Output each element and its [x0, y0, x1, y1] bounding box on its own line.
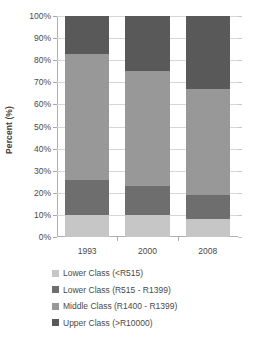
y-axis-tick-right: [238, 193, 242, 194]
y-axis-tick-right: [238, 149, 242, 150]
bar-segment[interactable]: [65, 215, 110, 237]
y-axis-tick: [53, 82, 57, 83]
y-axis-tick: [53, 171, 57, 172]
legend-swatch-icon: [52, 286, 59, 293]
y-axis-tick-label: 50%: [34, 122, 51, 132]
legend-item[interactable]: Lower Class (<R515): [52, 265, 252, 282]
y-axis-tick: [53, 104, 57, 105]
y-axis-tick-label: 90%: [34, 33, 51, 43]
bar-stack[interactable]: [125, 16, 170, 237]
legend-label: Lower Class (<R515): [63, 268, 143, 278]
y-axis-tick-label: 70%: [34, 77, 51, 87]
bar-segment[interactable]: [186, 89, 231, 195]
y-axis-title-text: Percent (%): [4, 106, 14, 154]
chart-legend: Lower Class (<R515)Lower Class (R515 - R…: [52, 265, 252, 331]
bar-segment[interactable]: [125, 16, 170, 71]
y-axis-tick-label: 80%: [34, 55, 51, 65]
legend-item[interactable]: Lower Class (R515 - R1399): [52, 282, 252, 299]
y-axis-tick-right: [238, 82, 242, 83]
y-axis-tick: [53, 193, 57, 194]
legend-swatch-icon: [52, 270, 59, 277]
bar-segment[interactable]: [65, 16, 110, 54]
bar-group: 1993: [65, 16, 110, 237]
y-axis-tick-label: 20%: [34, 188, 51, 198]
bar-segment[interactable]: [65, 54, 110, 180]
y-axis-tick-label: 0%: [39, 232, 51, 242]
bar-group: 2008: [186, 16, 231, 237]
y-axis-tick: [53, 149, 57, 150]
y-axis-tick-right: [238, 237, 242, 238]
x-axis-tick-label: 2000: [138, 246, 157, 256]
bar-segment[interactable]: [186, 16, 231, 89]
bar-stack[interactable]: [65, 16, 110, 237]
y-axis-tick-right: [238, 127, 242, 128]
y-axis-tick: [53, 38, 57, 39]
y-axis-tick: [53, 16, 57, 17]
bar-segment[interactable]: [186, 219, 231, 237]
stacked-bar-chart: Percent (%) 0%10%20%30%40%50%60%70%80%90…: [0, 0, 256, 343]
y-axis-tick-label: 10%: [34, 210, 51, 220]
bar-segment[interactable]: [186, 195, 231, 219]
legend-swatch-icon: [52, 303, 59, 310]
x-axis-tick-label: 1993: [78, 246, 97, 256]
y-axis-tick-label: 60%: [34, 99, 51, 109]
plot-area: 0%10%20%30%40%50%60%70%80%90%100% 199320…: [57, 16, 238, 237]
legend-label: Middle Class (R1400 - R1399): [63, 301, 177, 311]
y-axis-tick-label: 40%: [34, 144, 51, 154]
y-axis-tick-right: [238, 171, 242, 172]
y-axis-tick-right: [238, 60, 242, 61]
x-axis-tick-label: 2008: [198, 246, 217, 256]
y-axis-tick-right: [238, 38, 242, 39]
y-axis-tick-label: 30%: [34, 166, 51, 176]
bar-segment[interactable]: [125, 186, 170, 215]
y-axis-tick-right: [238, 16, 242, 17]
legend-label: Upper Class (>R10000): [63, 318, 153, 328]
legend-item[interactable]: Upper Class (>R10000): [52, 315, 252, 332]
bar-group: 2000: [125, 16, 170, 237]
bar-segment[interactable]: [65, 180, 110, 215]
bar-segment[interactable]: [125, 71, 170, 186]
y-axis-title: Percent (%): [0, 78, 18, 182]
x-axis-tick: [178, 237, 179, 241]
y-axis-tick-label: 100%: [29, 11, 51, 21]
y-axis-tick: [53, 127, 57, 128]
y-axis-tick-right: [238, 215, 242, 216]
legend-label: Lower Class (R515 - R1399): [63, 285, 171, 295]
y-axis-tick-right: [238, 104, 242, 105]
y-axis-tick: [53, 60, 57, 61]
y-axis-tick: [53, 237, 57, 238]
legend-swatch-icon: [52, 319, 59, 326]
bar-segment[interactable]: [125, 215, 170, 237]
y-axis-tick: [53, 215, 57, 216]
legend-item[interactable]: Middle Class (R1400 - R1399): [52, 298, 252, 315]
bar-stack[interactable]: [186, 16, 231, 237]
x-axis-tick: [117, 237, 118, 241]
